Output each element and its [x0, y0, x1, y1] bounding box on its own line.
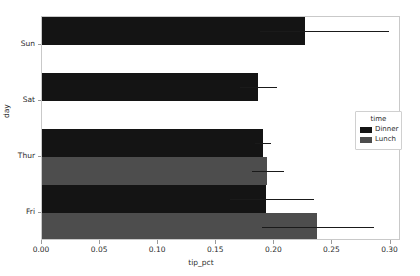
x-tick-label-0.15: 0.15 [207, 245, 224, 254]
x-tick-mark [157, 240, 158, 244]
legend-swatch-lunch-icon [360, 137, 372, 143]
x-tick-label-0.30: 0.30 [381, 245, 398, 254]
error-bar-fri-dinner [230, 199, 314, 200]
chart-figure: day SunSatThurFri 0.000.050.100.150.200.… [0, 0, 420, 276]
y-tick-label-thur: Thur [18, 151, 35, 160]
x-tick-label-0.20: 0.20 [265, 245, 282, 254]
legend[interactable]: time Dinner Lunch [355, 111, 402, 150]
x-tick-label-0.25: 0.25 [323, 245, 340, 254]
bars-layer [42, 17, 399, 239]
x-tick-mark [331, 240, 332, 244]
y-axis-label: day [2, 104, 11, 118]
x-tick-label-0.05: 0.05 [91, 245, 108, 254]
x-tick-mark [390, 240, 391, 244]
y-tick-label-fri: Fri [26, 207, 35, 216]
x-tick-mark [273, 240, 274, 244]
bar-thur-dinner [42, 129, 263, 157]
error-bar-sat-dinner [240, 87, 277, 88]
legend-item-dinner[interactable]: Dinner [360, 125, 397, 134]
x-tick-mark [215, 240, 216, 244]
legend-title: time [360, 115, 397, 123]
bar-fri-lunch [42, 213, 317, 239]
error-bar-fri-lunch [262, 227, 375, 228]
x-tick-mark [99, 240, 100, 244]
bar-sat-dinner [42, 73, 258, 101]
bar-thur-lunch [42, 157, 267, 185]
legend-swatch-dinner-icon [360, 127, 372, 133]
legend-item-lunch[interactable]: Lunch [360, 135, 397, 144]
x-axis-label-text: tip_pct [188, 258, 213, 267]
x-tick-label-0.10: 0.10 [149, 245, 166, 254]
error-bar-sun-dinner [260, 31, 389, 32]
legend-label-lunch: Lunch [375, 135, 396, 144]
error-bar-thur-lunch [252, 171, 283, 172]
plot-area [41, 16, 400, 240]
y-tick-label-sun: Sun [21, 39, 35, 48]
x-tick-mark [41, 240, 42, 244]
y-tick-label-sat: Sat [23, 95, 35, 104]
legend-label-dinner: Dinner [375, 125, 398, 134]
error-bar-thur-dinner [255, 143, 271, 144]
x-axis-label: tip_pct [0, 258, 420, 267]
x-tick-label-0.00: 0.00 [33, 245, 50, 254]
